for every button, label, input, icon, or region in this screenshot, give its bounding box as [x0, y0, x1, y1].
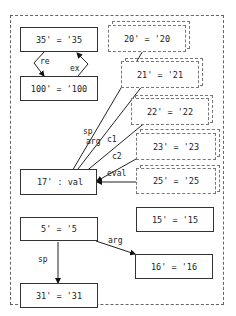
node-label: 16' = '16 — [151, 262, 197, 272]
node-label: 17' : val — [37, 177, 83, 187]
node-16[interactable]: 16' = '16 — [135, 254, 213, 279]
node-22[interactable]: 22' = '22 — [131, 98, 209, 125]
edge-label-ex: ex — [70, 64, 80, 73]
node-label: 15' = '15 — [152, 215, 198, 225]
edge-label-sp: sp — [83, 127, 93, 136]
node-23[interactable]: 23' = '23 — [136, 133, 216, 160]
node-15[interactable]: 15' = '15 — [136, 207, 214, 232]
node-label: 25' = '25 — [153, 176, 199, 186]
node-label: 35' = '35 — [36, 35, 82, 45]
edge-label-arg: arg — [86, 137, 100, 146]
node-label: 100' = '100 — [31, 84, 87, 94]
node-label: 22' = '22 — [147, 107, 193, 117]
edge-label-re: re — [40, 57, 50, 66]
edge-label-arg-bottom: arg — [108, 236, 122, 245]
node-5[interactable]: 5' = '5 — [20, 217, 98, 241]
node-31[interactable]: 31' = '31 — [20, 283, 98, 308]
node-100[interactable]: 100' = '100 — [20, 76, 98, 101]
edge-label-c1: c1 — [107, 135, 117, 144]
node-17[interactable]: 17' : val — [20, 169, 97, 195]
node-label: 21' = '21 — [137, 70, 183, 80]
edge-label-c2: c2 — [112, 152, 122, 161]
edge-label-eval: eval — [107, 169, 126, 178]
node-20[interactable]: 20' = '20 — [108, 25, 186, 52]
node-25[interactable]: 25' = '25 — [136, 168, 216, 194]
node-label: 23' = '23 — [153, 142, 199, 152]
node-35[interactable]: 35' = '35 — [20, 27, 98, 52]
node-label: 5' = '5 — [41, 224, 77, 234]
edge-label-sp-bottom: sp — [38, 255, 48, 264]
node-label: 20' = '20 — [124, 34, 170, 44]
node-label: 31' = '31 — [36, 291, 82, 301]
node-21[interactable]: 21' = '21 — [121, 61, 199, 88]
